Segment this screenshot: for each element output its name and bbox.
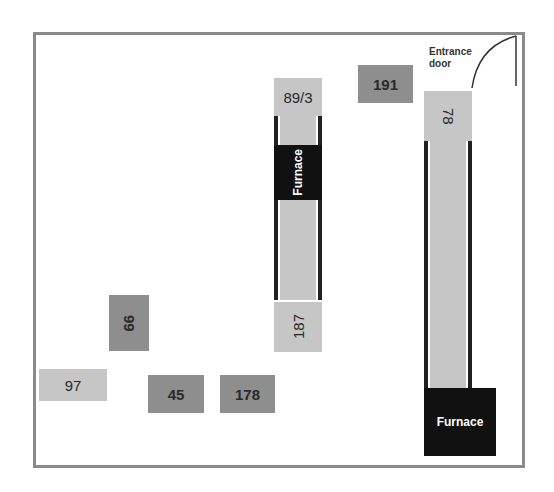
entrance-label-line1: Entrance (429, 46, 472, 58)
block-label: 89/3 (283, 89, 312, 106)
block-label: 78 (440, 108, 457, 125)
block-178: 178 (220, 375, 275, 413)
block-187: 187 (274, 302, 322, 352)
block-label: 97 (65, 377, 82, 394)
block-label: 99 (121, 315, 138, 332)
block-97: 97 (39, 369, 107, 401)
conveyor-rail (424, 141, 472, 389)
block-191: 191 (358, 65, 413, 103)
block-label: Furnace (291, 149, 305, 196)
block-99: 99 (109, 295, 149, 351)
conveyor-rail (274, 200, 322, 300)
block-label: Furnace (437, 415, 484, 429)
entrance-door-label: Entrance door (429, 46, 472, 70)
block-label: 45 (168, 386, 185, 403)
block-label: 187 (290, 314, 307, 339)
furnace-left: Furnace (274, 145, 322, 200)
block-45: 45 (148, 375, 204, 413)
entrance-label-line2: door (429, 58, 472, 70)
furnace-right: Furnace (424, 388, 496, 456)
conveyor-rail (274, 116, 322, 145)
block-78: 78 (424, 91, 472, 141)
door-swing-icon (470, 34, 520, 90)
block-label: 191 (373, 76, 398, 93)
block-89-3: 89/3 (274, 78, 322, 116)
block-label: 178 (235, 386, 260, 403)
